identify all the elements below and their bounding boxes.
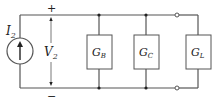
junction-dot [97,13,100,16]
junction-dot [144,13,147,16]
open-terminals [175,13,179,90]
junction-dot [144,86,147,89]
terminal-bottom [175,86,179,90]
circuit-diagram: I2 + − V2 GB GC GL [0,0,218,101]
minus-sign: − [47,90,56,101]
conductance-GB: GB [87,35,112,69]
arrow-down-icon [49,82,52,86]
plus-sign: + [47,2,56,15]
voltage-V2: + − V2 [44,2,58,101]
conductance-GL: GL [186,35,211,69]
terminal-top [175,13,179,17]
voltage-label: V2 [44,45,58,61]
junction-dot [97,86,100,89]
source-label: I2 [5,24,16,40]
current-source-I2: I2 [5,24,33,64]
conductance-GC: GC [134,35,159,69]
arrow-up-icon [49,17,52,21]
